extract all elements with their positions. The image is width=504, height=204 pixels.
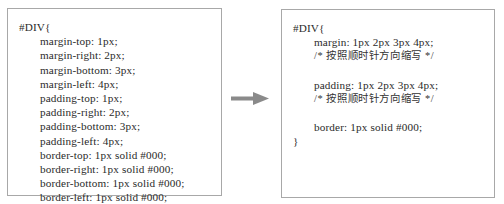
declaration-padding: padding: 1px 2px 3px 4px;: [293, 78, 490, 92]
declaration-margin-bottom: margin-bottom: 3px;: [19, 63, 217, 77]
margin-comment: /* 按照顺时针方向缩写 */: [293, 49, 490, 63]
declaration-padding-top: padding-top: 1px;: [19, 91, 217, 105]
declaration-border-left: border-left: 1px solid #000;: [19, 190, 217, 204]
declaration-margin-right: margin-right: 2px;: [19, 48, 217, 62]
spacer: [293, 64, 490, 78]
declaration-padding-bottom: padding-bottom: 3px;: [19, 119, 217, 133]
right-arrow-icon: [230, 91, 270, 106]
declaration-padding-right: padding-right: 2px;: [19, 105, 217, 119]
declaration-padding-left: padding-left: 4px;: [19, 134, 217, 148]
declaration-border-top: border-top: 1px solid #000;: [19, 148, 217, 162]
padding-comment: /* 按照顺时针方向缩写 */: [293, 92, 490, 106]
declaration-margin-top: margin-top: 1px;: [19, 34, 217, 48]
spacer: [293, 106, 490, 120]
declaration-border-bottom: border-bottom: 1px solid #000;: [19, 176, 217, 190]
shorthand-css-code: #DIV{ margin: 1px 2px 3px 4px; /* 按照顺时针方…: [293, 21, 490, 148]
longhand-css-code: #DIV{ margin-top: 1px; margin-right: 2px…: [19, 20, 217, 204]
selector-open: #DIV{: [19, 20, 217, 34]
selector-open: #DIV{: [293, 21, 490, 35]
declaration-border: border: 1px solid #000;: [293, 120, 490, 134]
declaration-margin: margin: 1px 2px 3px 4px;: [293, 35, 490, 49]
selector-close: }: [293, 134, 490, 148]
declaration-margin-left: margin-left: 4px;: [19, 77, 217, 91]
shorthand-css-box: #DIV{ margin: 1px 2px 3px 4px; /* 按照顺时针方…: [281, 9, 495, 198]
declaration-border-right: border-right: 1px solid #000;: [19, 162, 217, 176]
longhand-css-box: #DIV{ margin-top: 1px; margin-right: 2px…: [7, 8, 222, 196]
